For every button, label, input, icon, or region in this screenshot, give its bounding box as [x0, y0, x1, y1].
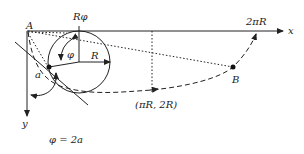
label-a: A — [25, 20, 33, 31]
chord-a-to-b — [28, 31, 233, 67]
label-angle-a: a — [35, 69, 41, 80]
point-b — [231, 65, 236, 70]
label-2-pi-r: 2πR — [245, 16, 267, 27]
label-y: y — [21, 118, 28, 129]
label-midpoint: (πR, 2R) — [135, 99, 177, 110]
label-r: R — [90, 50, 99, 61]
cycloid-diagram: A Rφ φ R a x y 2πR B (πR, 2R) φ = 2a — [0, 0, 304, 154]
label-r-phi: Rφ — [72, 11, 88, 22]
radius-to-point — [49, 62, 79, 67]
label-relation: φ = 2a — [49, 134, 83, 145]
contact-point — [47, 65, 52, 70]
label-x: x — [288, 25, 294, 36]
label-phi: φ — [67, 49, 74, 60]
guide-dotted-top — [28, 32, 67, 33]
cycloid-path — [28, 32, 256, 93]
normal-line — [15, 42, 88, 105]
label-b: B — [231, 74, 239, 85]
